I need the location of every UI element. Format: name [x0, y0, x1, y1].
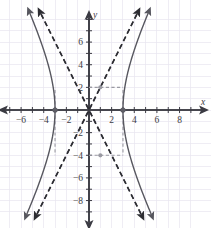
x-tick-label-3: 2 — [109, 115, 114, 125]
x-tick-label-4: 4 — [132, 115, 137, 125]
vertex-marker-0 — [52, 107, 57, 112]
y-tick-label-1: 4 — [78, 60, 83, 70]
y-tick-label-0: 6 — [78, 37, 83, 47]
y-tick-label-6: −8 — [73, 196, 83, 206]
y-tick-label-5: −6 — [73, 173, 83, 183]
x-tick-label-2: −2 — [61, 115, 71, 125]
y-tick-label-2: 2 — [78, 83, 83, 93]
hyperbola-graph-figure: −6−4−22468 642−2−4−6−8 x y — [0, 0, 211, 228]
coordinate-plane: −6−4−22468 642−2−4−6−8 x y — [0, 0, 211, 228]
y-tick-label-3: −2 — [73, 128, 83, 138]
x-tick-label-5: 6 — [155, 115, 160, 125]
reference-point-marker-1 — [98, 153, 102, 157]
x-axis-label: x — [200, 97, 206, 107]
y-tick-label-4: −4 — [73, 151, 83, 161]
vertex-marker-1 — [120, 107, 125, 112]
x-tick-label-0: −6 — [16, 115, 26, 125]
x-tick-label-1: −4 — [39, 115, 49, 125]
x-tick-label-6: 8 — [177, 115, 182, 125]
reference-point-marker-0 — [98, 85, 102, 89]
y-axis-label: y — [92, 10, 98, 20]
